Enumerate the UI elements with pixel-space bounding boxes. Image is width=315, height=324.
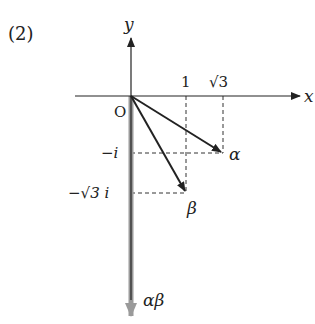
alpha-label: α [229, 144, 241, 164]
y-tick-neg-sqrt3-i: −√3 i [68, 184, 109, 202]
beta-label: β [186, 198, 197, 218]
vector-alpha [131, 96, 221, 152]
origin-label: O [114, 103, 126, 121]
y-axis-label: y [123, 14, 134, 34]
x-axis-label: x [304, 86, 314, 106]
vector-beta [131, 96, 185, 191]
complex-plane-diagram: (2) y x O 1 √3 −i −√3 i α β αβ [0, 0, 315, 324]
x-tick-sqrt3: √3 [209, 73, 228, 91]
y-tick-neg-i: −i [101, 144, 119, 162]
alpha-beta-label: αβ [143, 290, 164, 310]
x-tick-1: 1 [181, 73, 191, 91]
problem-label: (2) [8, 23, 34, 44]
